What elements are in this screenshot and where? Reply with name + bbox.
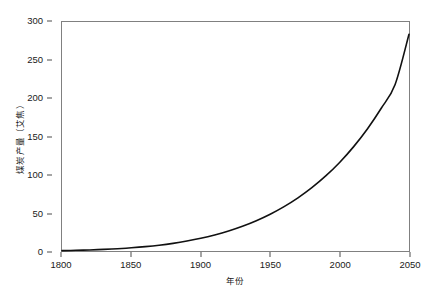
y-tick-label: 300 (27, 16, 43, 26)
y-tick-mark (47, 136, 52, 137)
x-tick-label: 1950 (260, 260, 281, 270)
y-axis-tick-labels: 050100150200250300 (0, 21, 52, 252)
y-tick-label: 100 (27, 170, 43, 180)
y-tick-label: 50 (32, 209, 43, 219)
x-tick-mark (200, 252, 201, 257)
x-tick-mark (270, 252, 271, 257)
y-tick-mark (47, 213, 52, 214)
x-tick-label: 1800 (50, 260, 71, 270)
x-tick-mark (410, 252, 411, 257)
x-tick-label: 2050 (399, 260, 420, 270)
chart-figure: 煤炭产量（艾焦） 050100150200250300 180018501900… (0, 0, 440, 298)
y-tick-mark (47, 21, 52, 22)
y-tick-label: 150 (27, 132, 43, 142)
y-tick-label: 0 (38, 247, 43, 257)
y-tick-mark (47, 252, 52, 253)
plot-area (61, 21, 410, 252)
x-tick-mark (340, 252, 341, 257)
x-tick-mark (61, 252, 62, 257)
y-tick-mark (47, 98, 52, 99)
y-tick-mark (47, 59, 52, 60)
line-series-svg (62, 22, 409, 251)
x-tick-label: 1900 (190, 260, 211, 270)
y-tick-mark (47, 175, 52, 176)
x-tick-mark (130, 252, 131, 257)
x-axis-tick-labels: 180018501900195020002050 (61, 252, 410, 274)
x-tick-label: 1850 (120, 260, 141, 270)
y-tick-label: 200 (27, 93, 43, 103)
x-tick-label: 2000 (330, 260, 351, 270)
y-tick-label: 250 (27, 55, 43, 65)
coal-production-curve (62, 34, 409, 250)
x-axis-title: 年份 (61, 274, 410, 286)
